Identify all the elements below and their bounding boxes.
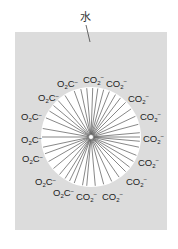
micelle-diagram: O2C−CO2−CO2−CO2−CO2−CO2−CO2−CO2−CO2−CO2−…	[0, 0, 178, 249]
water-label: 水	[80, 11, 91, 24]
micelle-center-hub	[89, 135, 94, 140]
